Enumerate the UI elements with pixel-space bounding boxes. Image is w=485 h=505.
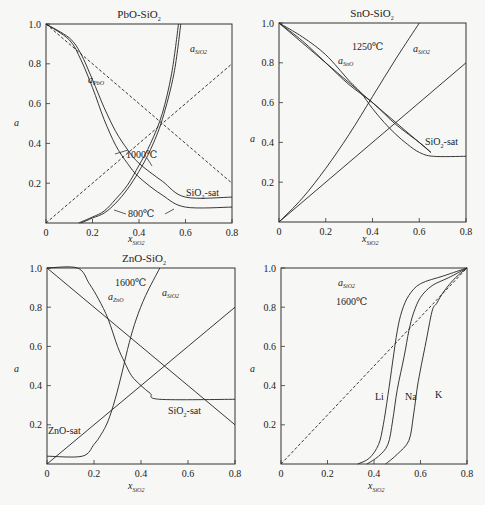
temp-label-800: 800℃ [128,208,154,219]
x-tick-label: 0 [279,468,284,479]
x-tick-label: 0.8 [226,227,239,238]
temp-label-1250: 1250℃ [352,41,383,52]
curve-na [367,268,467,464]
y-tick-label: 0.4 [30,380,43,391]
leader-line [165,209,174,214]
x-tick-label: 0.4 [135,468,148,479]
y-tick-label: 0.6 [262,97,275,108]
x-axis-label: xSiO2 [127,480,144,493]
curve-label-li: Li [375,391,384,402]
x-tick-label: 0.2 [88,468,101,479]
y-tick-label: 0.2 [29,178,42,189]
x-tick-label: 0.6 [413,226,426,237]
y-tick-label: 0.6 [29,98,42,109]
y-tick-label: 0.4 [262,137,275,148]
x-tick-label: 0.8 [460,226,473,237]
x-tick-label: 0.6 [414,468,427,479]
curve-label-a-sio2: aSiO2 [190,43,207,55]
y-tick-label: 0.4 [29,138,42,149]
curve-label-a-sio2: aSiO2 [413,43,430,55]
panel-alkali-sio2: a xSiO2 aSiO2 1600℃ Li Na K 00.20.40.60.… [250,263,473,494]
figure-canvas: PbO-SiO2 a xSiO2 aPbO aSiO2 1000℃ 800℃ S… [0,0,485,505]
x-tick-label: 0.4 [368,468,381,479]
y-tick-label: 0.2 [30,419,43,430]
panel-zno-sio2: ZnO-SiO2 a xSiO2 1600℃ aZnO aSiO2 ZnO-sa… [14,252,241,493]
x-tick-label: 0 [277,226,282,237]
x-axis-label: xSiO2 [367,480,384,493]
temp-label-1600: 1600℃ [336,296,367,307]
curve-a-sio2-800 [81,24,181,223]
y-tick-label: 0.4 [264,380,277,391]
y-axis-label: a [14,117,19,128]
x-tick-label: 0.2 [86,227,99,238]
x-tick-label: 0.4 [366,226,379,237]
sio2-sat-label: SiO2-sat [425,136,458,149]
panel-title: SnO-SiO2 [350,7,393,21]
curve-ideal [281,268,467,464]
y-axis-label: a [250,133,255,144]
y-tick-label: 0.6 [264,341,277,352]
y-axis-label: a [14,363,19,374]
panel-title: ZnO-SiO2 [122,252,166,266]
y-tick-label: 0.8 [29,58,42,69]
panel-sno-sio2: SnO-SiO2 a xSiO2 1250℃ aSnO aSiO2 SiO2-s… [250,7,472,246]
x-tick-label: 0.2 [320,226,333,237]
x-tick-label: 0.6 [179,227,192,238]
panel-pbo-sio2: PbO-SiO2 a xSiO2 aPbO aSiO2 1000℃ 800℃ S… [14,8,238,246]
curve-k [386,268,467,464]
y-tick-label: 0.8 [30,302,43,313]
curve-a-sio2-1000 [79,24,179,223]
y-tick-label: 1.0 [30,263,43,274]
sio2-sat-label: SiO2-sat [168,405,201,418]
y-tick-label: 0.2 [262,177,275,188]
panel-title: PbO-SiO2 [117,8,160,22]
y-axis-label: a [250,363,255,374]
temp-label-1600: 1600℃ [115,277,146,288]
curve-label-a-sno: aSnO [338,55,354,67]
y-tick-label: 1.0 [29,19,42,30]
curve-ideal-a-sio2 [47,307,235,464]
x-tick-label: 0.6 [182,468,195,479]
y-tick-label: 1.0 [264,263,277,274]
leader-line [114,210,126,214]
x-tick-label: 0.2 [321,468,334,479]
x-tick-label: 0.4 [133,227,146,238]
x-tick-label: 0.8 [229,468,242,479]
zno-sat-label: ZnO-sat [48,425,81,436]
x-tick-label: 0 [45,468,50,479]
curve-label-k: K [435,389,443,400]
curve-a-sio2 [279,23,419,222]
curve-label-a-zno: aZnO [108,291,124,303]
y-tick-label: 1.0 [262,18,275,29]
curve-label-a-sio2: aSiO2 [338,277,355,289]
y-tick-label: 0.8 [262,57,275,68]
y-tick-label: 0.8 [264,302,277,313]
curve-label-a-sio2: aSiO2 [162,287,179,299]
x-tick-label: 0.8 [461,468,474,479]
y-tick-label: 0.6 [30,341,43,352]
curve-ideal-a-zno [47,268,235,425]
y-tick-label: 0.2 [264,419,277,430]
x-tick-label: 0 [44,227,49,238]
